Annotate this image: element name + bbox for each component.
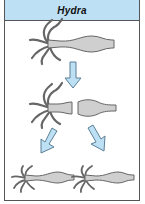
arrow-down-right-icon [88, 125, 105, 151]
arrow-down-icon [65, 62, 81, 88]
hydra-diagram [0, 0, 145, 204]
fission-hydra [30, 83, 116, 128]
offspring-hydra-left [12, 166, 74, 192]
arrow-down-left-icon [41, 128, 57, 153]
parent-hydra [30, 19, 114, 64]
offspring-hydra-right [72, 166, 134, 192]
